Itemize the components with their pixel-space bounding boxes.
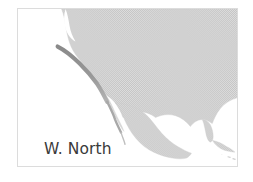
map-frame: W. North America	[17, 8, 238, 167]
region-label-line-1: W. North	[44, 140, 164, 159]
region-label: W. North America	[44, 121, 164, 167]
region-locator-figure: W. North America	[0, 0, 253, 182]
